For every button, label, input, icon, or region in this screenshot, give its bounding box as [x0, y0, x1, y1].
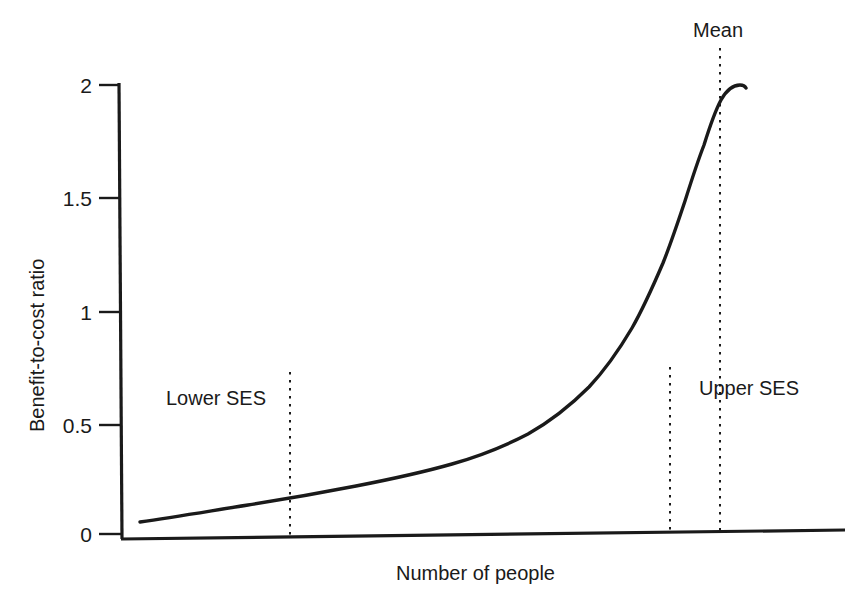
y-tick-label-1point5: 1.5 — [38, 188, 92, 209]
chart-figure: 2 1.5 1 0.5 0 Benefit-to-cost ratio Numb… — [0, 0, 868, 604]
y-axis-title: Benefit-to-cost ratio — [27, 259, 47, 432]
benefit-to-cost-curve — [140, 85, 746, 522]
chart-plot-area — [0, 0, 868, 604]
mean-label: Mean — [693, 20, 743, 40]
x-axis-title: Number of people — [396, 563, 555, 583]
upper-ses-label: Upper SES — [699, 378, 799, 398]
lower-ses-label: Lower SES — [166, 388, 266, 408]
x-axis-line — [121, 530, 845, 539]
y-tick-label-0: 0 — [54, 524, 92, 545]
y-tick-label-1: 1 — [54, 302, 92, 323]
y-tick-label-2: 2 — [54, 75, 92, 96]
